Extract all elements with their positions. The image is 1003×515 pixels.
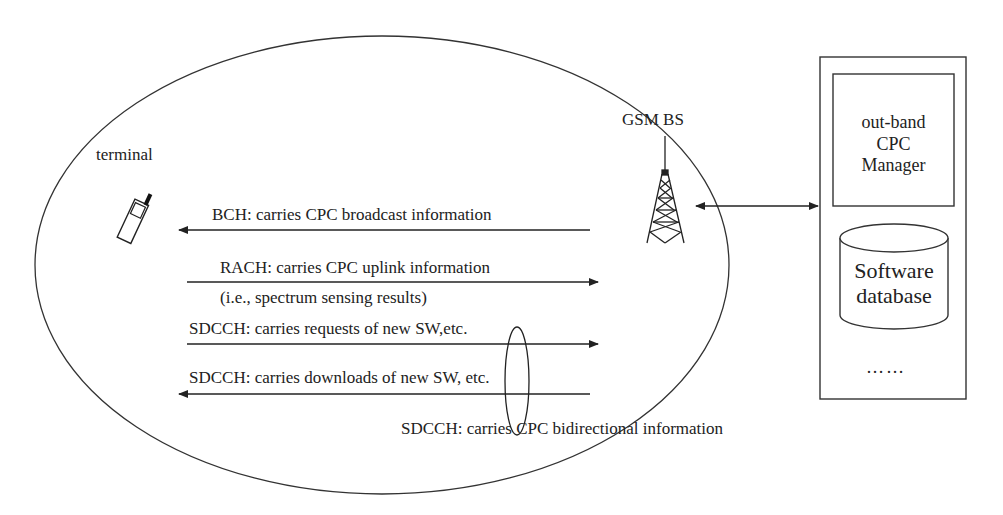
rach-label: RACH: carries CPC uplink information: [220, 259, 490, 276]
bch-label: BCH: carries CPC broadcast information: [212, 206, 492, 223]
cpc-manager-line-1: out-band: [833, 112, 954, 134]
cpc-manager-label: out-band CPC Manager: [833, 112, 954, 177]
rach-sublabel: (i.e., spectrum sensing results): [220, 289, 427, 306]
mobile-phone-icon: [117, 189, 153, 243]
sdcch-request-label: SDCCH: carries requests of new SW,etc.: [189, 320, 467, 337]
software-database-label: Software database: [840, 258, 948, 309]
software-database-line-1: Software: [840, 258, 948, 283]
cpc-manager-line-3: Manager: [833, 155, 954, 177]
cell-tower-icon: [647, 136, 684, 243]
terminal-label: terminal: [96, 146, 153, 163]
cpc-manager-line-2: CPC: [833, 134, 954, 156]
sdcch-bidirectional-note: SDCCH: carries CPC bidirectional informa…: [401, 420, 723, 437]
more-items-ellipsis: ……: [866, 358, 906, 376]
gsm-bs-label: GSM BS: [622, 111, 684, 128]
software-database-line-2: database: [840, 283, 948, 308]
sdcch-download-label: SDCCH: carries downloads of new SW, etc.: [189, 369, 490, 386]
